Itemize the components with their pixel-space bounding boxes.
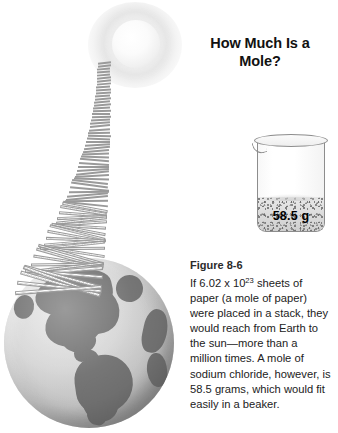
salt-surface (258, 194, 324, 201)
figure-page: How Much Is a Mole? 58.5 g Figure 8-6 If… (0, 0, 338, 433)
beaker-body: 58.5 g (257, 140, 325, 232)
paper-sheet (96, 88, 111, 91)
figure-caption: Figure 8-6 If 6.02 x 1023 sheets of pape… (190, 258, 332, 412)
paper-sheet (87, 134, 110, 137)
figure-title: How Much Is a Mole? (190, 34, 330, 70)
globe-landmass (145, 352, 170, 389)
globe-landmass (12, 293, 38, 321)
paper-sheet (87, 137, 110, 140)
paper-stack-illustration (14, 58, 182, 290)
globe-landmass (139, 307, 171, 355)
figure-caption-text: If 6.02 x 1023 sheets of paper (a mole o… (190, 273, 332, 412)
paper-sheet (92, 113, 110, 115)
globe-landmass (112, 271, 147, 306)
paper-sheet (88, 131, 110, 133)
figure-number-label: Figure 8-6 (190, 258, 332, 272)
beaker-illustration: 58.5 g (253, 130, 329, 234)
beaker-mass-label: 58.5 g (258, 209, 324, 223)
paper-sheet (89, 128, 110, 131)
